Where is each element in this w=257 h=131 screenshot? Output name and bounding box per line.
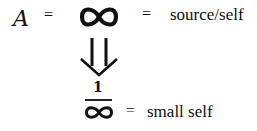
double-down-arrow-icon (79, 37, 119, 77)
equals-sign: = (126, 102, 134, 119)
infinity-icon (79, 3, 119, 31)
equals-sign: = (142, 5, 151, 23)
fraction-numerator: 1 (93, 79, 103, 95)
equals-sign: = (44, 6, 53, 24)
fraction-bar (85, 99, 112, 101)
variable-a: A (13, 6, 29, 31)
infinity-icon (84, 104, 114, 121)
small-self-label: small self (147, 102, 213, 122)
source-self-label: source/self (170, 5, 244, 25)
